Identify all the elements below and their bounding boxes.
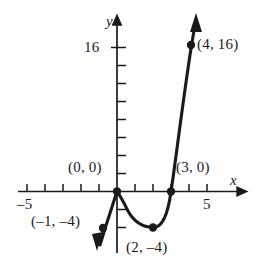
point-label-high: (4, 16): [197, 37, 238, 52]
y-tick-label-16: 16: [84, 40, 99, 55]
x-axis-ticks-negative: [27, 184, 99, 192]
y-axis-ticks-positive: [111, 48, 126, 174]
curve-arrow-upper-right: [190, 13, 202, 32]
x-axis: [18, 184, 238, 192]
y-axis: [111, 24, 126, 253]
point-marker-origin[interactable]: [113, 187, 121, 195]
point-marker-high[interactable]: [187, 41, 195, 49]
y-axis-label: y: [106, 14, 113, 29]
point-marker-minimum[interactable]: [149, 223, 157, 231]
point-marker-left[interactable]: [99, 224, 107, 232]
point-label-left: (–1, –4): [31, 214, 80, 229]
x-tick-label-minus-5: –5: [17, 197, 32, 212]
point-label-minimum: (2, –4): [126, 240, 167, 255]
point-marker-root-3[interactable]: [167, 187, 175, 195]
figure-canvas: y x 16 –5 5 (0, 0) (2, –4) (3, 0) (4, 16…: [0, 0, 257, 265]
point-label-origin: (0, 0): [68, 160, 102, 175]
x-axis-label: x: [230, 173, 237, 188]
y-axis-ticks-negative: [117, 210, 126, 228]
x-tick-label-5: 5: [203, 197, 211, 212]
point-label-root-3: (3, 0): [176, 160, 210, 175]
cubic-curve-path: [100, 21, 196, 245]
cubic-curve-group: [92, 13, 202, 251]
